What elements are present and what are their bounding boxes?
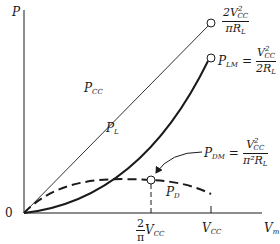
origin-label: 0 xyxy=(5,207,13,219)
x-axis-label: Vm xyxy=(264,222,279,236)
pcc-max-formula: 2V2CCπRL xyxy=(222,6,249,36)
pcc-max-point xyxy=(207,19,215,27)
y-axis-label: P xyxy=(12,6,20,18)
pdm-arrow xyxy=(156,152,202,173)
plm-point xyxy=(207,54,215,62)
vcc-label: VCC xyxy=(202,222,221,236)
pl-curve-label: PL xyxy=(106,122,119,136)
pl-curve xyxy=(24,61,208,213)
pcc-line xyxy=(24,26,208,213)
two-over-pi-vcc-label: 2πVCC xyxy=(136,218,164,243)
pdm-formula: PDM=V2CCπ²RL xyxy=(204,138,268,168)
pcc-curve-label: PCC xyxy=(84,82,103,96)
power-curves-diagram xyxy=(0,0,280,244)
pdm-point xyxy=(147,176,155,184)
plm-formula: PLM=V2CC2RL xyxy=(218,46,276,76)
pd-curve-label: PD xyxy=(166,186,180,200)
